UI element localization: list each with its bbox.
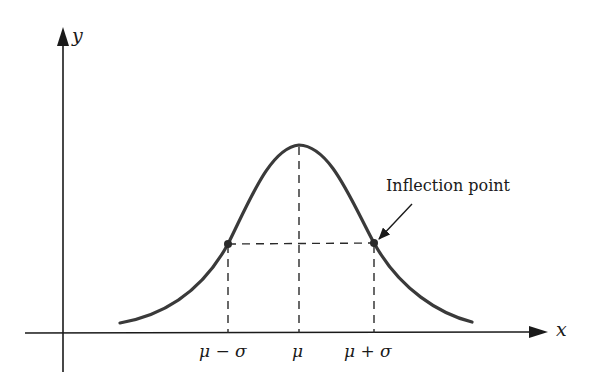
y-axis-label: y: [72, 24, 83, 46]
y-axis: [57, 27, 69, 372]
x-axis: [25, 326, 548, 338]
x-axis-label: x: [556, 318, 567, 340]
inflection-point-left: [224, 240, 232, 248]
annotation-arrow-icon: [379, 204, 412, 239]
inflection-point-annotation: Inflection point: [386, 176, 510, 195]
y-axis-arrow-icon: [57, 27, 69, 46]
x-axis-arrow-icon: [529, 326, 548, 338]
inflection-point-right: [370, 239, 378, 247]
dash-horizontal: [228, 243, 374, 244]
tick-label-mu-plus-sigma: μ + σ: [344, 341, 392, 361]
tick-label-mu: μ: [292, 341, 303, 361]
bell-curve: [120, 145, 472, 323]
reference-lines: [228, 147, 374, 333]
tick-label-mu-minus-sigma: μ − σ: [199, 341, 247, 361]
